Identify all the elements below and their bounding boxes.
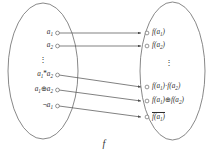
codomain-element-nodes (145, 31, 149, 119)
domain-label-a1-xor-a2: a1⊕a2 (35, 86, 53, 95)
codomain-label-f-a2: f(a2) (152, 42, 165, 51)
domain-label-a1: a1 (47, 29, 53, 38)
codomain-set-boundary (140, 2, 205, 140)
element-node (56, 31, 60, 35)
element-node (145, 99, 149, 103)
codomain-label-f-a1-negated: f(a1) (152, 112, 165, 122)
homomorphism-mapping-diagram: a1 a2 ⋮ a1*a2 a1⊕a2 ¬a1 f(a1) f(a2) ⋮ f(… (0, 0, 209, 168)
element-node (56, 73, 60, 77)
codomain-label-f-a1-xor-f-a2: f(a1)⊕f(a2) (152, 97, 184, 106)
domain-label-a1-star-a2: a1*a2 (37, 71, 53, 80)
element-node (145, 85, 149, 89)
mapping-arrow (59, 75, 141, 87)
domain-label-not-a1: ¬a1 (43, 102, 53, 111)
element-node (145, 115, 149, 119)
element-node (145, 44, 149, 48)
element-node (145, 31, 149, 35)
mapping-arrows (59, 33, 141, 117)
mapping-arrow (59, 90, 141, 101)
element-node (56, 88, 60, 92)
domain-element-nodes (56, 31, 60, 108)
element-node (56, 104, 60, 108)
domain-label-a2: a2 (47, 42, 53, 51)
element-node (56, 44, 60, 48)
codomain-ellipsis: ⋮ (165, 59, 173, 67)
domain-ellipsis: ⋮ (39, 56, 47, 64)
codomain-label-f-a1: f(a1) (152, 29, 165, 38)
codomain-label-f-a1-dot-f-a2: f(a1)·f(a2) (152, 83, 180, 92)
function-label: f (103, 138, 106, 149)
